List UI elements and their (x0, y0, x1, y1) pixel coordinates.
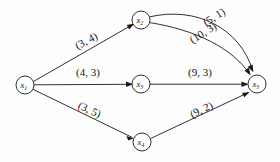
arrow-head-x4-x5 (242, 92, 250, 97)
graph-canvas: x1 x2 x3 x4 x5 (3, 4) (4, 3) (3, 5) (0, 0, 280, 162)
edge-x3-x5[interactable] (150, 82, 249, 87)
edge-x1-x4[interactable] (33, 89, 134, 141)
graph-figure: x1 x2 x3 x4 x5 (3, 4) (4, 3) (3, 5) (0, 0, 280, 162)
edge-x2-x5-upper[interactable] (149, 14, 253, 72)
edge-x1-x3[interactable] (34, 82, 133, 87)
edge-line-x1-x4 (33, 89, 133, 137)
node-x1[interactable]: x1 (16, 76, 34, 94)
edge-label-x4-x5: (9, 2) (188, 99, 215, 121)
edge-label-x1-x4: (3, 5) (76, 99, 103, 121)
edge-label-x1-x2: (3, 4) (73, 29, 100, 52)
edge-line-x2-x5-upper (149, 14, 252, 71)
node-x3[interactable]: x3 (132, 75, 150, 93)
arrow-head-x3-x5 (242, 82, 249, 87)
edge-line-x1-x3 (34, 84, 132, 85)
node-x5[interactable]: x5 (248, 75, 266, 93)
edge-label-x1-x3: (4, 3) (76, 66, 100, 79)
edge-label-x3-x5: (9, 3) (188, 66, 212, 79)
node-x2[interactable]: x2 (132, 11, 150, 29)
node-x4[interactable]: x4 (133, 133, 151, 151)
nodes-layer: x1 x2 x3 x4 x5 (16, 11, 266, 151)
